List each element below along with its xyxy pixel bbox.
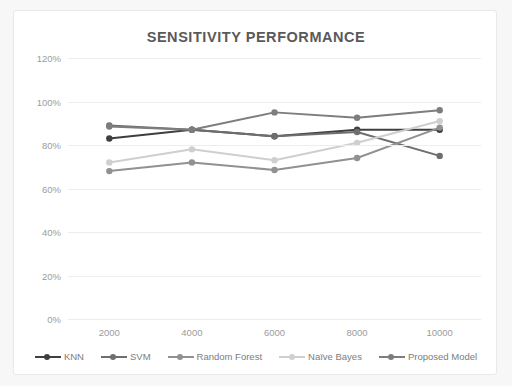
data-point (437, 118, 443, 124)
legend-label: SVM (130, 351, 151, 362)
legend-item-proposed-model[interactable]: Proposed Model (379, 351, 477, 362)
data-point (354, 115, 360, 121)
gridline (68, 102, 481, 103)
y-axis-tick-label: 0% (47, 314, 61, 325)
data-point (437, 153, 443, 159)
x-axis-tick-label: 4000 (181, 327, 202, 338)
plot-area: 0%20%40%60%80%100%120%200040006000800010… (68, 58, 481, 319)
x-axis-tick-label: 6000 (264, 327, 285, 338)
data-point (271, 157, 277, 163)
data-point (437, 107, 443, 113)
gridline (68, 189, 481, 190)
chart-page: SENSITIVITY PERFORMANCE 0%20%40%60%80%10… (0, 0, 512, 386)
legend-swatch-icon (35, 352, 61, 361)
legend-label: Random Forest (197, 351, 262, 362)
gridline (68, 319, 481, 320)
y-axis-tick-label: 100% (37, 96, 61, 107)
legend-label: Proposed Model (408, 351, 477, 362)
legend-swatch-icon (168, 352, 194, 361)
legend-swatch-icon (379, 352, 405, 361)
legend-label: Naïve Bayes (308, 351, 362, 362)
legend-item-na-ve-bayes[interactable]: Naïve Bayes (279, 351, 362, 362)
plot-wrapper: 0%20%40%60%80%100%120%200040006000800010… (14, 11, 498, 376)
y-axis-tick-label: 20% (42, 270, 61, 281)
gridline (68, 145, 481, 146)
gridline (68, 58, 481, 59)
gridline (68, 232, 481, 233)
legend-swatch-icon (279, 352, 305, 361)
data-point (189, 127, 195, 133)
legend-swatch-icon (101, 352, 127, 361)
x-axis-tick-label: 10000 (426, 327, 452, 338)
data-point (271, 109, 277, 115)
data-point (271, 167, 277, 173)
data-point (354, 129, 360, 135)
data-point (354, 155, 360, 161)
data-point (437, 124, 443, 130)
x-axis-tick-label: 8000 (347, 327, 368, 338)
chart-card: SENSITIVITY PERFORMANCE 0%20%40%60%80%10… (13, 10, 497, 375)
x-axis-tick-label: 2000 (99, 327, 120, 338)
legend-item-random-forest[interactable]: Random Forest (168, 351, 262, 362)
data-point (189, 159, 195, 165)
data-point (106, 168, 112, 174)
y-axis-tick-label: 120% (37, 53, 61, 64)
legend-item-svm[interactable]: SVM (101, 351, 151, 362)
data-point (106, 123, 112, 129)
chart-legend: KNNSVMRandom ForestNaïve BayesProposed M… (14, 351, 498, 362)
legend-item-knn[interactable]: KNN (35, 351, 84, 362)
y-axis-tick-label: 60% (42, 183, 61, 194)
gridline (68, 276, 481, 277)
data-point (189, 146, 195, 152)
legend-label: KNN (64, 351, 84, 362)
data-point (106, 135, 112, 141)
y-axis-tick-label: 80% (42, 140, 61, 151)
series-random-forest (106, 124, 443, 174)
data-point (106, 159, 112, 165)
data-point (271, 133, 277, 139)
y-axis-tick-label: 40% (42, 227, 61, 238)
